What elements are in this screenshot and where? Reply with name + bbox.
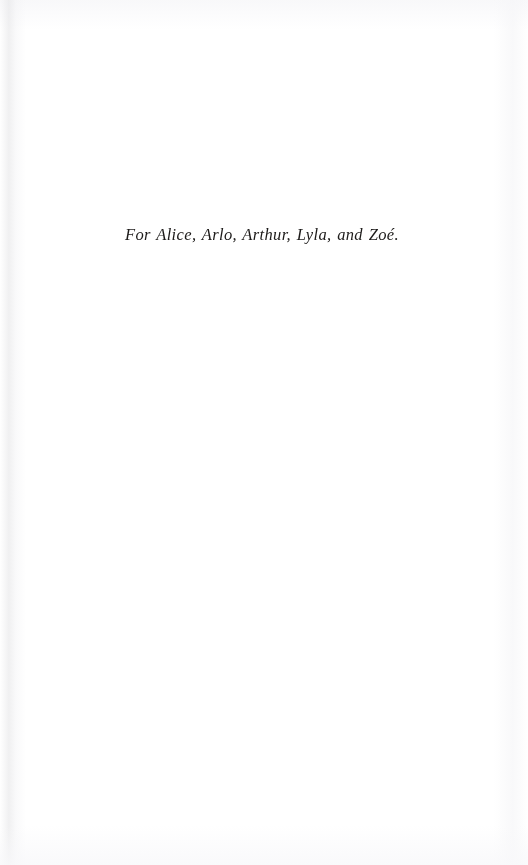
dedication-block: For Alice, Arlo, Arthur, Lyla, and Zoé. bbox=[0, 224, 528, 246]
scan-edge-shading-top bbox=[0, 0, 528, 30]
scan-edge-shading-left bbox=[0, 0, 26, 865]
dedication-text: For Alice, Arlo, Arthur, Lyla, and Zoé. bbox=[125, 224, 399, 246]
dedication-page: For Alice, Arlo, Arthur, Lyla, and Zoé. bbox=[0, 0, 528, 865]
scan-edge-shading-right bbox=[494, 0, 528, 865]
scan-edge-shading-bottom bbox=[0, 825, 528, 865]
